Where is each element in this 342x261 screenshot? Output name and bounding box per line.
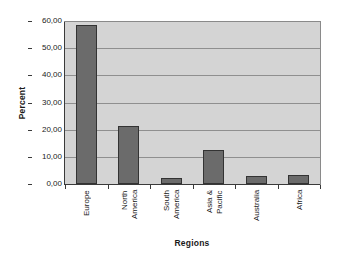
bar-slot [235, 21, 278, 184]
y-axis-tick-labels: 0,0010,0020,0030,0040,0050,0060,00 [32, 21, 62, 184]
category-label-line: Pacific [214, 190, 223, 234]
y-axis-tick-mark [28, 48, 32, 49]
y-axis-tick-label: 0,00 [32, 180, 62, 188]
bar-slot [108, 21, 151, 184]
bar[interactable] [288, 175, 309, 184]
x-axis-tick-mark [278, 185, 279, 189]
x-axis-tick-mark [150, 185, 151, 189]
category-label-slot: Asia &Pacific [193, 190, 236, 234]
bar-chart: Percent 0,0010,0020,0030,0040,0050,0060,… [0, 0, 342, 261]
category-label: SouthAmerica [162, 190, 181, 234]
x-axis-tick-mark [235, 185, 236, 189]
y-axis-tick-label: 40,00 [32, 71, 62, 79]
bar-slot [65, 21, 108, 184]
y-axis-tick-mark [28, 103, 32, 104]
category-label-slot: Australia [235, 190, 278, 234]
x-axis-tick-mark [65, 185, 66, 189]
category-label-slot: NorthAmerica [108, 190, 151, 234]
category-label: NorthAmerica [119, 190, 138, 234]
category-label-line: North [119, 190, 128, 234]
category-label-slot: Africa [278, 190, 321, 234]
y-axis-title-text: Percent [17, 86, 27, 119]
y-axis-tick-label: 10,00 [32, 153, 62, 161]
category-label: Asia &Pacific [204, 190, 223, 234]
category-label-slot: SouthAmerica [150, 190, 193, 234]
y-axis-tick-mark [28, 157, 32, 158]
category-label-line: Asia & [204, 190, 213, 234]
x-axis-category-labels: EuropeNorthAmericaSouthAmericaAsia &Paci… [65, 190, 320, 234]
bar[interactable] [118, 126, 139, 184]
y-axis-tick-label: 30,00 [32, 99, 62, 107]
category-label-line: Australia [252, 190, 261, 234]
category-label-line: America [129, 190, 138, 234]
category-label-slot: Europe [65, 190, 108, 234]
category-label-line: Europe [82, 190, 91, 234]
category-label-line: South [162, 190, 171, 234]
y-axis-tick-mark [28, 21, 32, 22]
category-label-line: America [172, 190, 181, 234]
x-axis-tick-mark [193, 185, 194, 189]
bar-slot [278, 21, 321, 184]
bar-slot [150, 21, 193, 184]
category-label: Africa [294, 190, 303, 234]
bar-slot [193, 21, 236, 184]
x-axis-tick-mark [108, 185, 109, 189]
bar[interactable] [161, 178, 182, 184]
category-label: Australia [252, 190, 261, 234]
bar[interactable] [76, 25, 97, 184]
bar-series [65, 21, 320, 184]
y-axis-tick-mark [28, 184, 32, 185]
x-axis-title: Regions [64, 238, 320, 248]
y-axis-tick-label: 50,00 [32, 44, 62, 52]
y-axis-tick-mark [28, 130, 32, 131]
bar[interactable] [246, 176, 267, 184]
y-axis-tick-mark [28, 75, 32, 76]
bar[interactable] [203, 150, 224, 185]
y-axis-tick-label: 60,00 [32, 17, 62, 25]
y-axis-tick-label: 20,00 [32, 126, 62, 134]
category-label-line: Africa [294, 190, 303, 234]
category-label: Europe [82, 190, 91, 234]
x-axis-tick-marks [65, 185, 320, 189]
x-axis-tick-mark [320, 185, 321, 189]
